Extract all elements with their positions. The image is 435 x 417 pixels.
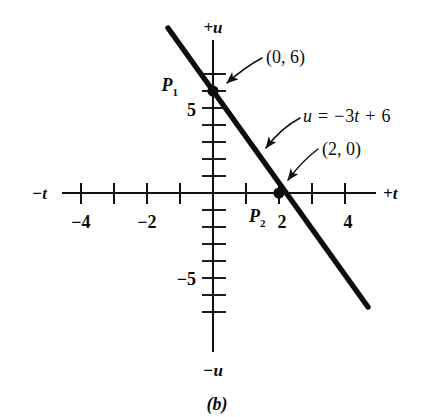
coordinate-label-2-0: (2, 0) [322, 139, 361, 160]
equation-rhs-operator: + [365, 106, 375, 126]
t-tick-label-4: 4 [344, 212, 353, 232]
plot-line-u-equals-minus3t-plus6 [168, 28, 368, 307]
point-marker-p2 [273, 187, 284, 198]
t-tick-label-2: 2 [278, 212, 287, 232]
point-label-p2-subscript: 2 [260, 217, 266, 229]
equation-rhs-constant: 6 [381, 106, 390, 126]
u-tick-label-minus5: −5 [177, 269, 196, 289]
point-label-p2: P2 [248, 206, 266, 229]
u-tick-label-5: 5 [187, 100, 196, 120]
t-axis-negative-label: −t [32, 184, 48, 203]
coordinate-label-0-6: (0, 6) [266, 47, 305, 68]
leader-arrow-0-6 [227, 58, 262, 83]
coordinate-plane-svg: −t +t +u −u −4 −2 2 4 5 −5 P1 P2 (0, 6) … [0, 0, 435, 417]
svg-text:P2: P2 [248, 206, 266, 229]
equation-label: u=−3t+6 [303, 106, 390, 126]
leader-arrow-2-0 [288, 149, 318, 180]
equation-relation: = [318, 106, 328, 126]
figure-caption: (b) [207, 394, 228, 415]
equation-rhs-sign: − [334, 106, 344, 126]
point-label-p1-subscript: 1 [173, 86, 179, 98]
equation-lhs: u [303, 106, 312, 126]
equation-rhs-variable: t [354, 106, 360, 126]
point-label-p1: P1 [161, 75, 179, 98]
point-marker-p1 [207, 85, 218, 96]
u-axis-positive-label: +u [203, 18, 222, 37]
t-tick-label-minus2: −2 [137, 212, 156, 232]
t-axis-positive-label: +t [383, 184, 399, 203]
graph-figure: −t +t +u −u −4 −2 2 4 5 −5 P1 P2 (0, 6) … [0, 0, 435, 417]
axes-group [62, 40, 376, 352]
svg-text:P1: P1 [161, 75, 179, 98]
t-tick-label-minus4: −4 [71, 212, 90, 232]
equation-rhs-coefficient: 3 [345, 106, 354, 126]
leader-arrow-equation [266, 118, 300, 148]
u-axis-negative-label: −u [203, 361, 223, 380]
